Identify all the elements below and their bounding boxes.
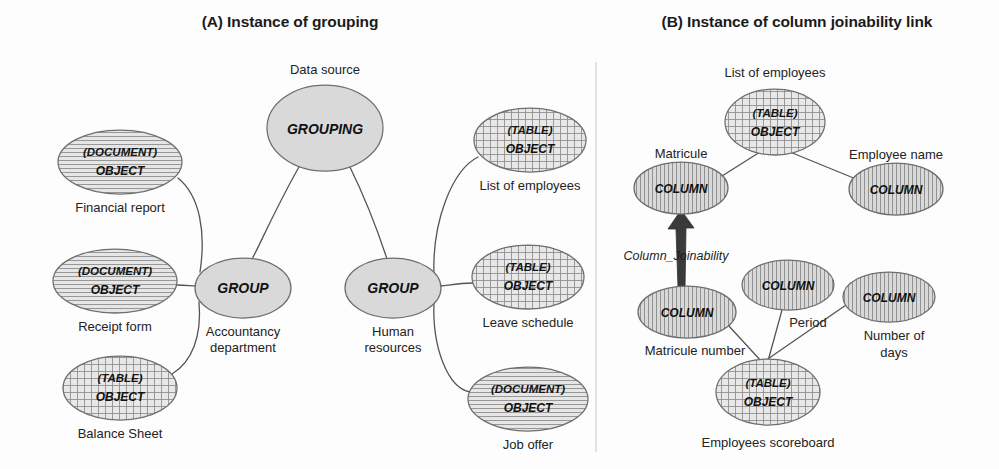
table-list-of-employees-type: (TABLE) [752, 107, 797, 119]
object-financial-report-kind: OBJECT [96, 164, 146, 178]
object-receipt-form-kind: OBJECT [91, 283, 141, 297]
object-balance-sheet[interactable]: (TABLE) OBJECT Balance Sheet [63, 356, 177, 441]
object-leave-schedule-caption: Leave schedule [482, 315, 573, 330]
group-accountancy-caption-1: Accountancy [206, 324, 281, 339]
edge-accountancy-financial-report [178, 178, 202, 272]
group-human-resources-caption-1: Human [372, 324, 414, 339]
object-job-offer-type: (DOCUMENT) [491, 383, 565, 395]
edge-number-of-days-scoreboard [762, 305, 846, 363]
column-matricule-caption: Matricule [655, 146, 708, 161]
edge-grouping-accountancy [252, 165, 300, 259]
object-job-offer-ellipse [468, 367, 588, 431]
edge-hr-job-offer [434, 302, 470, 392]
column-matricule[interactable]: Matricule COLUMN [634, 146, 728, 214]
table-list-of-employees[interactable]: List of employees (TABLE) OBJECT [724, 65, 826, 155]
object-list-of-employees-kind: OBJECT [506, 142, 556, 156]
object-receipt-form-ellipse [53, 249, 177, 313]
panel-b-connectors [722, 152, 856, 363]
object-financial-report[interactable]: (DOCUMENT) OBJECT Financial report [58, 130, 182, 215]
panel-b-title: (B) Instance of column joinability link [662, 13, 933, 30]
column-employee-name-kind: COLUMN [870, 183, 923, 197]
group-accountancy-caption-2: department [210, 340, 276, 355]
column-number-of-days-kind: COLUMN [863, 291, 916, 305]
column-employee-name-caption: Employee name [849, 147, 943, 162]
table-employees-scoreboard-caption: Employees scoreboard [702, 435, 835, 450]
object-leave-schedule-ellipse [472, 245, 584, 309]
column-period-caption: Period [789, 315, 827, 330]
panel-a-title: (A) Instance of grouping [202, 13, 379, 30]
grouping-caption: Data source [290, 62, 360, 77]
table-employees-scoreboard-kind: OBJECT [744, 395, 794, 409]
object-list-of-employees-type: (TABLE) [507, 124, 552, 136]
object-balance-sheet-caption: Balance Sheet [78, 426, 163, 441]
edge-hr-leave-schedule [441, 283, 473, 286]
column-joinability-label: Column_Joinability [624, 249, 730, 263]
object-financial-report-type: (DOCUMENT) [83, 146, 157, 158]
column-matricule-number-kind: COLUMN [661, 306, 714, 320]
group-human-resources[interactable]: GROUP Human resources [345, 258, 441, 355]
column-matricule-kind: COLUMN [655, 182, 708, 196]
figure-root: (A) Instance of grouping (B) Instance of… [0, 0, 999, 469]
object-list-of-employees-caption: List of employees [479, 178, 581, 193]
column-matricule-number[interactable]: COLUMN Matricule number [638, 286, 746, 358]
object-balance-sheet-type: (TABLE) [97, 372, 142, 384]
object-receipt-form-caption: Receipt form [78, 319, 152, 334]
object-job-offer-caption: Job offer [503, 437, 554, 452]
group-human-resources-kind-label: GROUP [367, 280, 419, 296]
object-leave-schedule[interactable]: (TABLE) OBJECT Leave schedule [472, 245, 584, 330]
edge-list-employee-name [790, 152, 856, 179]
object-receipt-form-type: (DOCUMENT) [78, 265, 152, 277]
figure-canvas: (A) Instance of grouping (B) Instance of… [0, 0, 999, 469]
edge-list-matricule [722, 152, 760, 176]
group-accountancy[interactable]: GROUP Accountancy department [195, 258, 291, 355]
edge-accountancy-balance-sheet [172, 302, 200, 374]
edge-hr-list-of-employees [434, 157, 478, 275]
column-matricule-number-caption: Matricule number [645, 343, 746, 358]
object-job-offer[interactable]: (DOCUMENT) OBJECT Job offer [468, 367, 588, 452]
object-list-of-employees[interactable]: (TABLE) OBJECT List of employees [474, 108, 586, 193]
table-employees-scoreboard[interactable]: (TABLE) OBJECT Employees scoreboard [702, 359, 835, 450]
group-accountancy-kind-label: GROUP [217, 280, 269, 296]
edge-accountancy-receipt-form [177, 285, 196, 286]
table-list-of-employees-caption: List of employees [724, 65, 826, 80]
object-job-offer-kind: OBJECT [504, 401, 554, 415]
object-list-of-employees-ellipse [474, 108, 586, 172]
table-list-of-employees-kind: OBJECT [751, 125, 801, 139]
edge-grouping-human-resources [349, 165, 387, 259]
object-leave-schedule-kind: OBJECT [504, 279, 554, 293]
object-leave-schedule-type: (TABLE) [505, 261, 550, 273]
grouping-kind-label: GROUPING [287, 121, 363, 137]
column-period[interactable]: COLUMN Period [742, 260, 834, 330]
object-receipt-form[interactable]: (DOCUMENT) OBJECT Receipt form [53, 249, 177, 334]
column-employee-name[interactable]: Employee name COLUMN [849, 147, 943, 215]
table-employees-scoreboard-type: (TABLE) [745, 377, 790, 389]
object-financial-report-ellipse [58, 130, 182, 194]
column-joinability-arrow[interactable]: Column_Joinability [624, 210, 730, 288]
column-number-of-days-caption-2: days [880, 345, 908, 360]
column-number-of-days[interactable]: COLUMN Number of days [843, 272, 935, 360]
object-financial-report-caption: Financial report [75, 200, 165, 215]
column-period-kind: COLUMN [762, 279, 815, 293]
table-list-of-employees-ellipse [725, 89, 825, 155]
table-employees-scoreboard-ellipse [716, 359, 820, 425]
column-number-of-days-caption-1: Number of [864, 328, 925, 343]
group-human-resources-caption-2: resources [364, 340, 422, 355]
object-balance-sheet-ellipse [63, 356, 177, 420]
object-balance-sheet-kind: OBJECT [96, 390, 146, 404]
grouping-node[interactable]: Data source GROUPING [267, 62, 383, 171]
